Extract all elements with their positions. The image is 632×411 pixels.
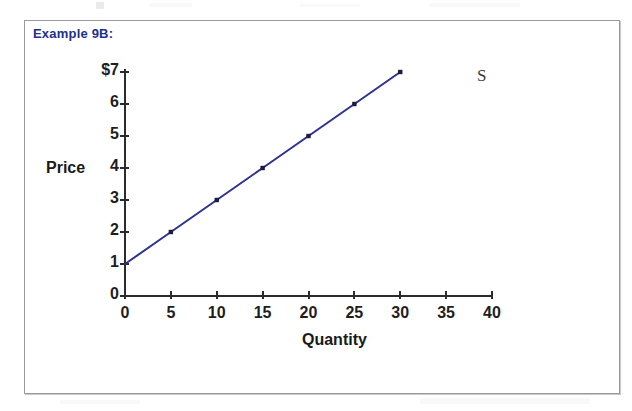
scan-artifact bbox=[430, 3, 520, 7]
scan-artifact bbox=[96, 2, 104, 9]
supply-curve-chart: 0123456$7 0510152025303540 Price Quantit… bbox=[25, 21, 621, 395]
data-point-marker bbox=[306, 134, 310, 138]
supply-curve-label: S bbox=[477, 66, 486, 86]
data-point-marker bbox=[169, 230, 173, 234]
scan-artifact bbox=[420, 398, 590, 404]
data-point-marker bbox=[398, 70, 402, 74]
scan-artifact bbox=[150, 3, 192, 7]
scan-artifact bbox=[300, 4, 360, 7]
data-point-marker bbox=[260, 166, 264, 170]
scan-artifact bbox=[60, 400, 140, 404]
example-box: Example 9B: 0123456$7 0510152025303540 P… bbox=[24, 20, 620, 394]
plot-area bbox=[25, 21, 621, 395]
data-point-marker bbox=[215, 198, 219, 202]
data-point-marker bbox=[352, 102, 356, 106]
